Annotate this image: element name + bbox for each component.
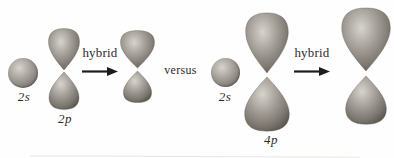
hybrid-arrow-group-right: hybrid [292, 46, 332, 77]
right-arrow-icon [81, 66, 119, 77]
p-orbital-4p [243, 12, 291, 133]
hybrid-label-right: hybrid [294, 46, 329, 60]
hybrid-orbital-large [340, 7, 392, 126]
label-2s-left: 2s [11, 90, 37, 103]
orbital-hybridization-figure: 2s 2p hybrid versus 2s 4p hybrid [0, 0, 394, 158]
p-orbital-2p [47, 28, 81, 112]
page-edge-line [30, 155, 360, 158]
hybrid-orbital-small [119, 30, 156, 104]
hybrid-arrow-group-left: hybrid [80, 46, 120, 77]
label-4p: 4p [258, 133, 284, 146]
s-orbital-sphere-right [211, 58, 240, 87]
label-2p: 2p [52, 112, 78, 125]
versus-label: versus [159, 64, 202, 77]
right-arrow-icon [293, 66, 331, 77]
hybrid-label-left: hybrid [82, 46, 117, 60]
s-orbital-sphere-left [8, 58, 38, 88]
label-2s-right: 2s [212, 90, 238, 103]
